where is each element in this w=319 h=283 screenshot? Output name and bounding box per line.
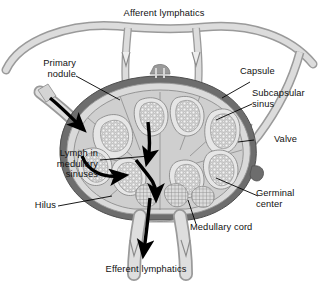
germinal-center [211, 114, 236, 149]
label-subcapsular-sinus: Subcapsular sinus [252, 88, 319, 109]
lymph-node-body [60, 64, 264, 222]
label-medullary-cord: Medullary cord [190, 222, 286, 233]
label-primary-nodule: Primary nodule [8, 58, 76, 79]
germinal-center [100, 120, 128, 151]
medullary-cords [136, 184, 215, 208]
label-efferent-lymphatics: Efferent lymphatics [78, 264, 214, 275]
diagram-canvas [0, 0, 319, 283]
germinal-center [176, 100, 200, 131]
lymph-node-diagram: Afferent lymphatics Primary nodule Capsu… [0, 0, 319, 283]
label-valve: Valve [274, 134, 318, 145]
label-lymph-in-medullary-sinuses: Lymph in medullary sinuses [2, 148, 98, 180]
label-afferent-lymphatics: Afferent lymphatics [104, 8, 224, 19]
label-germinal-center: Germinal center [256, 188, 318, 209]
label-hilus: Hilus [6, 200, 56, 211]
label-capsule: Capsule [240, 66, 316, 77]
